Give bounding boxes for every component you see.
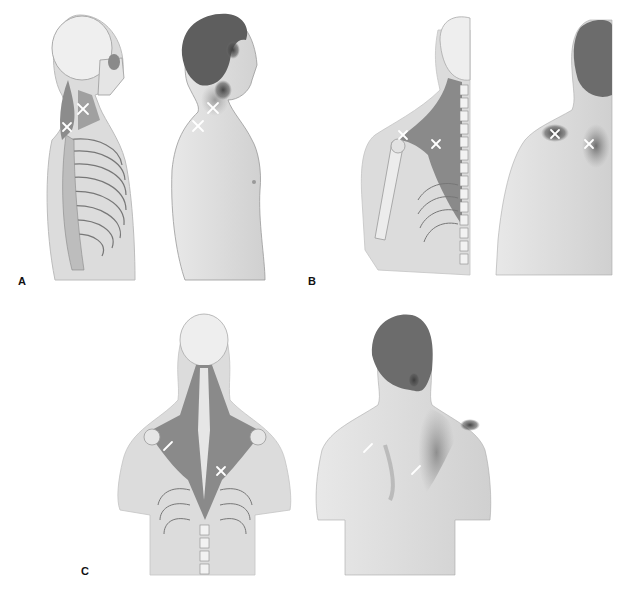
panel-a-skeletal xyxy=(47,15,135,280)
anatomical-illustration xyxy=(0,0,625,594)
figure-canvas: A B C xyxy=(0,0,625,594)
panel-c-surface xyxy=(316,314,491,575)
panel-label-a: A xyxy=(18,275,26,287)
panel-c-skeletal xyxy=(118,314,291,575)
panel-label-b: B xyxy=(308,275,316,287)
panel-a-surface xyxy=(172,14,265,280)
panel-b-surface xyxy=(496,20,612,275)
panel-label-c: C xyxy=(81,565,89,577)
panel-b-skeletal xyxy=(361,17,470,275)
